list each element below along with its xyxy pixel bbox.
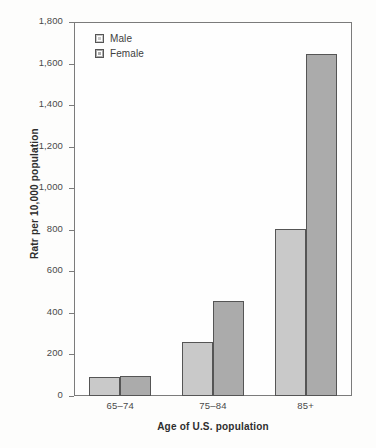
- y-tick-label: 1,200: [39, 140, 63, 151]
- bar-female-1: [213, 301, 244, 396]
- bar-male-1: [182, 342, 213, 396]
- legend: Male Female: [95, 33, 144, 63]
- bar-chart-figure: 02004006008001,0001,2001,4001,6001,800 R…: [0, 0, 376, 448]
- y-tick-label: 0: [58, 389, 63, 400]
- y-tick-mark: [69, 396, 74, 397]
- x-axis-title: Age of U.S. population: [74, 421, 352, 432]
- y-tick-label: 400: [47, 306, 63, 317]
- legend-item-female: Female: [95, 48, 144, 59]
- y-tick-label: 200: [47, 347, 63, 358]
- bar-female-0: [120, 376, 151, 396]
- legend-swatch-male-icon: [95, 34, 104, 43]
- legend-swatch-female-icon: [95, 49, 104, 58]
- bar-male-0: [89, 377, 120, 396]
- y-tick-label: 600: [47, 264, 63, 275]
- bar-female-2: [306, 54, 337, 396]
- y-tick-label: 1,400: [39, 98, 63, 109]
- y-tick-label: 1,600: [39, 57, 63, 68]
- y-tick-label: 1,000: [39, 181, 63, 192]
- legend-label-male: Male: [110, 33, 132, 44]
- x-tick-label: 65–74: [107, 400, 134, 411]
- y-tick-label: 800: [47, 223, 63, 234]
- x-tick-label: 75–84: [199, 400, 226, 411]
- y-axis-title: Ratr per 10,000 population: [29, 94, 40, 294]
- legend-label-female: Female: [110, 48, 144, 59]
- y-tick-label: 1,800: [39, 15, 63, 26]
- bars-layer: [74, 22, 352, 396]
- x-tick-label: 85+: [297, 400, 314, 411]
- legend-item-male: Male: [95, 33, 144, 44]
- bar-male-2: [275, 229, 306, 396]
- x-axis: 65–7475–8485+: [74, 400, 352, 418]
